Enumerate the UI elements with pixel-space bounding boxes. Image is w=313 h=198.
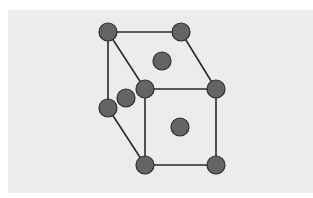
atom-back-top-left (99, 23, 117, 41)
atom-front-face-center (171, 118, 189, 136)
atom-left-face-center (117, 89, 135, 107)
atom-front-bottom-left (136, 156, 154, 174)
unit-cell-diagram (0, 0, 313, 198)
atom-front-bottom-right (207, 156, 225, 174)
atom-front-top-left (136, 80, 154, 98)
edge-back-top-right-front-top-right (181, 32, 216, 89)
atom-back-bottom-left (99, 99, 117, 117)
atom-top-face-center (153, 52, 171, 70)
atom-back-top-right (172, 23, 190, 41)
edge-back-top-left-front-top-left (108, 32, 145, 89)
edge-back-bottom-left-front-bottom-left (108, 108, 145, 165)
lattice-atoms (99, 23, 225, 174)
atom-front-top-right (207, 80, 225, 98)
